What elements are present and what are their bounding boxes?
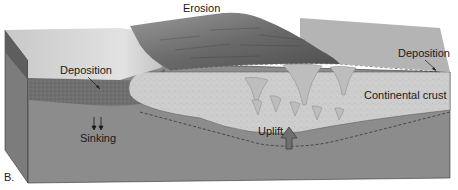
label-deposition-left: Deposition — [60, 65, 112, 76]
label-sinking: Sinking — [80, 133, 116, 144]
label-uplift: Uplift — [258, 126, 283, 137]
label-erosion: Erosion — [183, 3, 220, 14]
label-deposition-right: Deposition — [398, 48, 450, 59]
label-continental-crust: Continental crust — [364, 90, 447, 101]
panel-label: B. — [4, 172, 14, 183]
